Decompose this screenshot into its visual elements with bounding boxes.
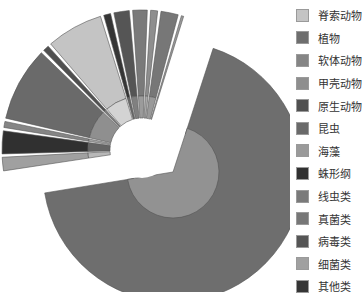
legend-label: 植物	[318, 30, 340, 46]
legend-label: 海藻	[318, 143, 340, 159]
legend-label: 线虫类	[318, 188, 351, 204]
legend-swatch	[296, 235, 309, 248]
legend-swatch	[296, 257, 309, 270]
legend-swatch	[296, 99, 309, 112]
legend-item: 甲壳动物	[296, 72, 362, 95]
legend-label: 昆虫	[318, 120, 340, 136]
legend-item: 软体动物	[296, 49, 362, 72]
legend-label: 甲壳动物	[318, 75, 362, 91]
legend-item: 海藻	[296, 140, 362, 163]
legend-swatch	[296, 190, 309, 203]
legend-item: 真菌类	[296, 207, 362, 230]
legend-item: 昆虫	[296, 117, 362, 140]
legend-label: 软体动物	[318, 52, 362, 68]
pie-center-gap	[114, 122, 170, 178]
legend-swatch	[296, 167, 309, 180]
legend-item: 线虫类	[296, 185, 362, 208]
legend-item: 细菌类	[296, 253, 362, 276]
legend-label: 细菌类	[318, 256, 351, 272]
legend-swatch	[296, 212, 309, 225]
legend-label: 脊索动物	[318, 7, 362, 23]
pie-slice-inner	[138, 96, 144, 118]
pie-slice-outer	[2, 153, 88, 171]
legend-item: 脊索动物	[296, 4, 362, 27]
legend-swatch	[296, 122, 309, 135]
legend-item: 蛛形纲	[296, 162, 362, 185]
legend-item: 病毒类	[296, 230, 362, 253]
legend-swatch	[296, 77, 309, 90]
legend-label: 病毒类	[318, 233, 351, 249]
legend-swatch	[296, 9, 309, 22]
legend-item: 原生动物	[296, 94, 362, 117]
legend-swatch	[296, 54, 309, 67]
pie-chart	[0, 0, 290, 292]
legend: 脊索动物 植物 软体动物 甲壳动物 原生动物 昆虫 海藻 蛛形纲 线虫类 真菌类…	[296, 4, 362, 297]
legend-item: 其他类	[296, 275, 362, 297]
legend-swatch	[296, 280, 309, 293]
pie-slice-inner	[88, 152, 110, 158]
pie-slice-11	[2, 152, 110, 171]
legend-label: 真菌类	[318, 211, 351, 227]
legend-label: 其他类	[318, 278, 351, 294]
legend-label: 蛛形纲	[318, 165, 351, 181]
legend-swatch	[296, 31, 309, 44]
legend-swatch	[296, 144, 309, 157]
legend-item: 植物	[296, 27, 362, 50]
legend-label: 原生动物	[318, 98, 362, 114]
